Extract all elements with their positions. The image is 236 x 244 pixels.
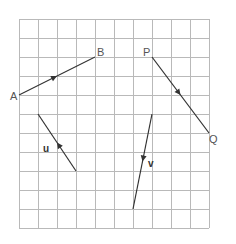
point-label-p: P (143, 46, 150, 58)
point-label-a: A (10, 90, 18, 102)
vector-label-u: u (43, 143, 49, 154)
point-label-q: Q (209, 133, 218, 145)
square-grid (19, 19, 210, 229)
vector-grid-diagram: A B P Q u v (0, 0, 236, 244)
arrowhead-icon (55, 141, 63, 149)
vector-label-v: v (148, 158, 154, 169)
point-label-b: B (97, 46, 104, 58)
